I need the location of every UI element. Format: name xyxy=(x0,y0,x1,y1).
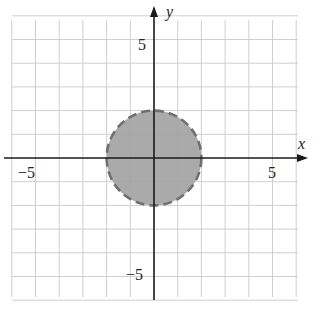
y-axis-arrow-icon xyxy=(150,6,158,17)
x-axis-arrow-icon xyxy=(297,154,308,162)
x-axis-label: x xyxy=(297,135,305,152)
x-tick-label-neg5: −5 xyxy=(18,164,35,181)
y-tick-label-5: 5 xyxy=(138,36,146,53)
x-tick-label-5: 5 xyxy=(268,164,276,181)
y-axis-label: y xyxy=(164,3,174,21)
coordinate-plane: x y −5 5 5 −5 xyxy=(0,0,316,313)
y-tick-label-neg5: −5 xyxy=(126,266,143,283)
